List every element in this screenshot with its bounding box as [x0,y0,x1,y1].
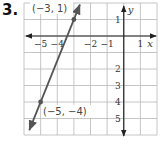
point-label: (−5, −4) [43,106,87,117]
x-axis-label: x [147,38,153,49]
y-tick-label: 2 [115,64,121,74]
y-tick-label: 4 [115,97,121,107]
coordinate-plane: −5−4−2−1112345xy (−3, 1)(−5, −4) [0,0,165,147]
data-point [38,100,43,105]
x-tick-label: −1 [100,39,113,49]
y-tick-label: 1 [115,15,121,25]
point-label: (−3, 1) [32,3,67,14]
x-tick-label: −5 [34,39,48,49]
y-axis-label: y [127,4,134,15]
x-tick-label: 1 [138,39,144,49]
y-tick-label: 3 [115,81,121,91]
x-tick-label: −2 [84,39,97,49]
y-tick-label: 5 [115,114,121,124]
data-point [71,17,76,22]
